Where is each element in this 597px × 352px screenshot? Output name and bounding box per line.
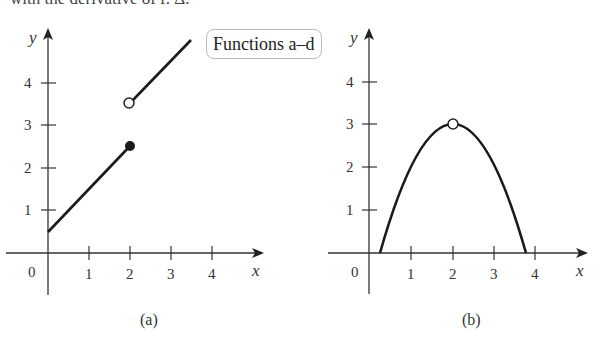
x-tick-label: 1 [85, 266, 93, 282]
caption-a: (a) [140, 311, 158, 329]
x-axis-label: x [575, 261, 584, 280]
y-tick-label: 2 [24, 160, 32, 176]
y-tick-label: 4 [346, 74, 354, 90]
closed-dot [125, 141, 135, 151]
y-tick-label: 4 [24, 75, 32, 91]
y-tick-label: 3 [24, 117, 32, 133]
segment-lower [48, 146, 130, 232]
origin-label: 0 [28, 264, 36, 280]
y-axis-label: y [27, 28, 37, 47]
open-circle [124, 98, 134, 108]
segment-upper [133, 40, 191, 100]
y-axis-label: y [348, 28, 358, 47]
y-tick-label: 3 [346, 116, 354, 132]
y-tick-label: 1 [24, 202, 32, 218]
graph-b: 1 2 3 4 1 2 3 4 0 x y (b) [328, 28, 586, 329]
y-tick-label: 2 [346, 159, 354, 175]
origin-label: 0 [351, 264, 359, 280]
x-tick-label: 3 [490, 266, 498, 282]
x-tick-label: 3 [167, 266, 175, 282]
open-circle [448, 119, 458, 129]
x-tick-label: 4 [208, 266, 216, 282]
graph-a: 1 2 3 4 1 2 3 4 0 x y (a) [6, 28, 262, 329]
x-axis-label: x [251, 261, 260, 280]
x-tick-label: 2 [126, 266, 134, 282]
x-tick-label: 4 [531, 266, 539, 282]
x-tick-label: 2 [449, 266, 457, 282]
x-tick-label: 1 [407, 266, 415, 282]
legend-functions-a-d: Functions a–d [206, 29, 322, 59]
y-tick-label: 1 [346, 202, 354, 218]
parabola-curve [380, 124, 526, 253]
caption-b: (b) [462, 311, 481, 329]
